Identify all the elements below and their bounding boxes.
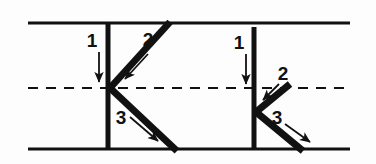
background [0, 0, 376, 164]
left-segment-1-label: 1 [87, 30, 98, 51]
left-segment-2-label: 2 [143, 29, 154, 50]
right-segment-1-label: 1 [234, 32, 245, 53]
right-segment-2-label: 2 [278, 63, 289, 84]
left-segment-3-label: 3 [116, 107, 127, 128]
right-segment-3-label: 3 [272, 107, 283, 128]
figure-canvas: 1 2 3 1 2 3 [0, 0, 376, 164]
crack-branching-diagram: 1 2 3 1 2 3 [0, 0, 376, 164]
